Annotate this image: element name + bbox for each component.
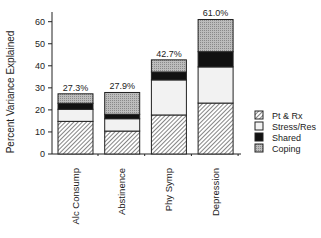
category-label: Alc Consump [70, 168, 81, 225]
bar-segment-coping-3 [198, 19, 233, 51]
legend-swatch [255, 133, 263, 141]
legend-swatch [255, 144, 263, 152]
category-label: Depression [210, 168, 221, 216]
y-tick-label: 20 [35, 105, 45, 115]
category-label: Phy Symp [163, 168, 174, 211]
legend: Pt & RxStress/ResSharedCoping [255, 111, 317, 154]
bar-segment-stress-res-2 [151, 80, 186, 115]
bar-segment-coping-0 [58, 94, 93, 103]
y-tick-label: 0 [40, 149, 45, 159]
bar-segment-stress-res-3 [198, 67, 233, 103]
y-axis-label: Percent Variance Explained [5, 31, 16, 154]
legend-label: Stress/Res [272, 122, 317, 132]
bar-segment-shared-3 [198, 52, 233, 67]
legend-label: Shared [272, 133, 301, 143]
y-tick-label: 10 [35, 127, 45, 137]
bar-segment-pt-rx-1 [105, 131, 140, 154]
bar-segment-pt-rx-3 [198, 103, 233, 154]
legend-label: Coping [272, 144, 301, 154]
y-tick-label: 40 [35, 61, 45, 71]
total-label: 42.7% [156, 49, 182, 59]
total-label: 61.0% [203, 8, 229, 18]
y-tick-label: 60 [35, 17, 45, 27]
bar-segment-stress-res-0 [58, 109, 93, 121]
category-label: Abstinence [116, 168, 127, 215]
y-tick-label: 30 [35, 83, 45, 93]
legend-swatch [255, 122, 263, 130]
bar-segment-pt-rx-0 [58, 121, 93, 154]
bar-segment-stress-res-1 [105, 119, 140, 131]
bar-segment-shared-2 [151, 72, 186, 80]
bar-segment-shared-0 [58, 103, 93, 109]
y-tick-label: 50 [35, 39, 45, 49]
legend-label: Pt & Rx [272, 111, 303, 121]
stacked-bar-chart: Percent Variance Explained 0102030405060… [0, 0, 321, 238]
total-label: 27.9% [109, 81, 135, 91]
bar-segment-shared-1 [105, 114, 140, 118]
total-label: 27.3% [63, 83, 89, 93]
bar-segment-coping-2 [151, 60, 186, 72]
bar-segment-coping-1 [105, 92, 140, 114]
bar-segment-pt-rx-2 [151, 115, 186, 154]
legend-swatch [255, 111, 263, 119]
